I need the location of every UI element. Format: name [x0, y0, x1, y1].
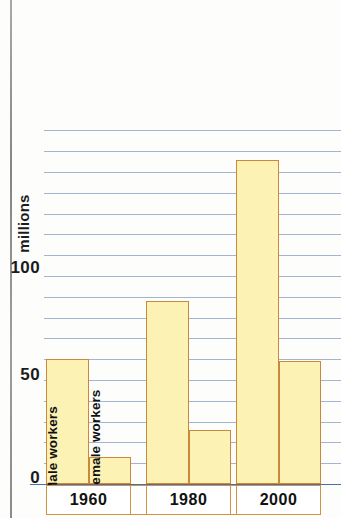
gridline — [44, 318, 341, 319]
y-tick-100: 100 — [0, 258, 40, 278]
x-gap-1 — [131, 485, 146, 515]
gridline — [44, 297, 341, 298]
gridline — [44, 193, 341, 194]
gridline — [44, 234, 341, 235]
bar-2000-female[interactable] — [279, 361, 321, 484]
x-group-1960[interactable]: 1960 — [46, 485, 131, 515]
bar-label-female-workers: Female workers — [88, 390, 103, 493]
gridline — [44, 338, 341, 339]
gridline — [44, 276, 341, 277]
gridline — [44, 172, 341, 173]
bar-chart: millions 100 50 0 Male workers Female wo… — [0, 0, 341, 518]
x-group-1980-label: 1980 — [170, 491, 208, 509]
plot-area: millions 100 50 0 Male workers Female wo… — [0, 0, 341, 518]
y-tick-50: 50 — [0, 365, 40, 385]
y-tick-0: 0 — [0, 468, 40, 488]
gridline — [44, 214, 341, 215]
gridline — [44, 130, 341, 131]
gridline — [44, 151, 341, 152]
x-group-2000[interactable]: 2000 — [236, 485, 321, 515]
bar-1980-female[interactable] — [189, 430, 231, 484]
x-group-1960-label: 1960 — [70, 491, 108, 509]
gridline — [44, 255, 341, 256]
bar-2000-male[interactable] — [236, 160, 279, 484]
bar-label-male-workers: Male workers — [45, 406, 60, 493]
bar-1980-male[interactable] — [146, 301, 189, 484]
x-group-2000-label: 2000 — [260, 491, 298, 509]
x-group-1980[interactable]: 1980 — [146, 485, 231, 515]
